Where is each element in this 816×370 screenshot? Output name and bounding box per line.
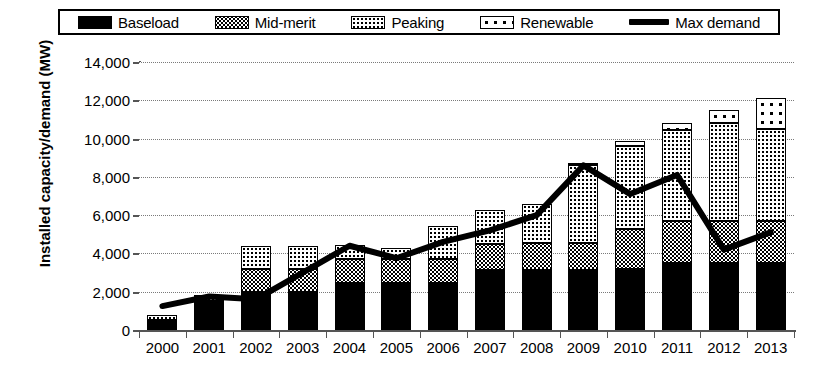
legend-item-peaking[interactable]: Peaking [351,15,444,30]
x-axis-tick-mark [607,330,608,338]
x-axis-tick-mark [700,330,701,338]
y-axis-title: Installed capacity/demand (MW) [36,24,53,284]
y-axis-tick-label: 12,000 [84,93,139,108]
x-axis-tick-mark [420,330,421,338]
pattern-swatch-mid-merit [215,16,249,29]
x-axis-tick-label: 2006 [426,340,459,355]
legend-item-mid-merit[interactable]: Mid-merit [215,15,316,30]
x-axis-tick-label: 2005 [380,340,413,355]
x-axis-tick-label: 2008 [520,340,553,355]
pattern-swatch-peaking [351,16,385,29]
x-axis-tick-mark [513,330,514,338]
x-axis-tick-label: 2001 [192,340,225,355]
x-axis-tick-mark [186,330,187,338]
legend-item-max-demand[interactable]: Max demand [629,15,760,30]
max-demand-line-layer [139,62,794,330]
y-axis-tick-label: 10,000 [84,131,139,146]
pattern-swatch-renewable [480,16,514,29]
x-axis-tick-label: 2007 [473,340,506,355]
x-axis-tick-mark [233,330,234,338]
x-axis-tick-mark [373,330,374,338]
plot-area: 02,0004,0006,0008,00010,00012,00014,0002… [139,62,794,330]
x-axis-tick-label: 2010 [614,340,647,355]
x-axis-tick-label: 2009 [567,340,600,355]
legend-item-renewable[interactable]: Renewable [480,15,593,30]
x-axis-tick-label: 2013 [754,340,787,355]
x-axis-tick-label: 2000 [146,340,179,355]
x-axis-tick-label: 2011 [661,340,693,355]
x-axis-tick-mark [326,330,327,338]
x-axis-tick-mark [654,330,655,338]
x-axis-tick-label: 2002 [239,340,272,355]
x-axis-tick-mark [279,330,280,338]
y-axis-tick-label: 14,000 [84,55,139,70]
legend-label: Peaking [391,15,444,30]
x-axis-tick-label: 2004 [333,340,366,355]
legend-label: Mid-merit [255,15,316,30]
legend-label: Renewable [520,15,593,30]
x-axis-line [139,330,796,332]
x-axis-tick-mark [794,330,795,338]
pattern-swatch-baseload [78,16,112,29]
chart-root: BaseloadMid-meritPeakingRenewableMax dem… [0,0,816,370]
chart-legend: BaseloadMid-meritPeakingRenewableMax dem… [58,9,780,35]
legend-label: Baseload [118,15,179,30]
x-axis-tick-mark [139,330,140,338]
x-axis-tick-mark [467,330,468,338]
x-axis-tick-mark [747,330,748,338]
line-swatch-max-demand [629,19,669,25]
x-axis-tick-label: 2003 [286,340,319,355]
legend-item-baseload[interactable]: Baseload [78,15,179,30]
x-axis-tick-mark [560,330,561,338]
max-demand-line [162,165,770,306]
x-axis-tick-label: 2012 [707,340,740,355]
legend-label: Max demand [675,15,760,30]
